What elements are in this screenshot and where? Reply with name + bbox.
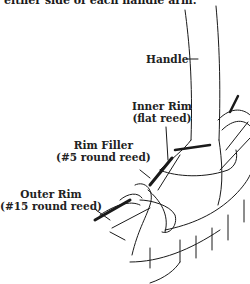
handle-label: Handle xyxy=(146,53,188,65)
rim-filler-label: Rim Filler (#5 round reed) xyxy=(56,139,151,163)
inner-rim-material: (flat reed) xyxy=(132,112,192,124)
inner-rim-name: Inner Rim xyxy=(132,100,192,112)
inner-rim-label: Inner Rim (flat reed) xyxy=(132,100,192,124)
rim-filler-leader xyxy=(140,170,150,178)
outer-rim-material: (#15 round reed) xyxy=(0,200,102,212)
outer-rim-label: Outer Rim (#15 round reed) xyxy=(0,188,102,212)
inner-rim-leader xyxy=(166,127,168,160)
rim-filler-material: (#5 round reed) xyxy=(56,151,151,163)
rim-filler-name: Rim Filler xyxy=(56,139,151,151)
outer-rim-name: Outer Rim xyxy=(0,188,102,200)
